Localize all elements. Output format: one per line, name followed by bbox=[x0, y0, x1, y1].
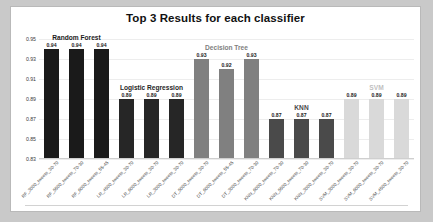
bar-value-label: 0.89 bbox=[346, 92, 356, 98]
bar-value-label: 0.87 bbox=[271, 112, 281, 118]
bar: 0.94 bbox=[69, 49, 85, 159]
bar-value-label: 0.94 bbox=[46, 42, 56, 48]
bar: 0.89 bbox=[394, 99, 410, 159]
bar-value-label: 0.89 bbox=[396, 92, 406, 98]
bar: 0.89 bbox=[169, 99, 185, 159]
group-label: Logistic Regression bbox=[120, 84, 183, 91]
bar: 0.93 bbox=[194, 59, 210, 159]
bar: 0.87 bbox=[269, 119, 285, 159]
group-label: KNN bbox=[294, 104, 308, 111]
bar: 0.94 bbox=[44, 49, 60, 159]
plot-area: 0.950.930.910.890.870.850.83 0.940.940.9… bbox=[39, 39, 414, 159]
bar: 0.93 bbox=[244, 59, 260, 159]
group-label: Random Forest bbox=[52, 34, 100, 41]
chart-card: Top 3 Results for each classifier 0.950.… bbox=[10, 6, 421, 212]
bar-value-label: 0.87 bbox=[296, 112, 306, 118]
bar-value-label: 0.89 bbox=[171, 92, 181, 98]
y-tick-label: 0.95 bbox=[26, 36, 36, 42]
bar-value-label: 0.89 bbox=[146, 92, 156, 98]
bar: 0.89 bbox=[369, 99, 385, 159]
footer-divider bbox=[25, 205, 408, 206]
bar-value-label: 0.89 bbox=[121, 92, 131, 98]
bar-value-label: 0.93 bbox=[196, 52, 206, 58]
y-tick-label: 0.87 bbox=[26, 116, 36, 122]
bar-value-label: 0.94 bbox=[96, 42, 106, 48]
bar-value-label: 0.87 bbox=[321, 112, 331, 118]
bar: 0.94 bbox=[94, 49, 110, 159]
group-label: Decision Tree bbox=[205, 44, 248, 51]
bar-value-label: 0.89 bbox=[371, 92, 381, 98]
y-tick-label: 0.83 bbox=[26, 156, 36, 162]
bar-value-label: 0.94 bbox=[71, 42, 81, 48]
bar-value-label: 0.93 bbox=[246, 52, 256, 58]
bar: 0.87 bbox=[319, 119, 335, 159]
y-tick-label: 0.91 bbox=[26, 76, 36, 82]
bar-value-label: 0.92 bbox=[221, 62, 231, 68]
x-axis-line bbox=[39, 158, 414, 159]
bar: 0.92 bbox=[219, 69, 235, 159]
chart-title: Top 3 Results for each classifier bbox=[11, 12, 420, 24]
group-label: SVM bbox=[369, 84, 383, 91]
bar: 0.89 bbox=[144, 99, 160, 159]
y-tick-label: 0.89 bbox=[26, 96, 36, 102]
y-tick-label: 0.93 bbox=[26, 56, 36, 62]
bar: 0.89 bbox=[119, 99, 135, 159]
y-tick-label: 0.85 bbox=[26, 136, 36, 142]
bar: 0.87 bbox=[294, 119, 310, 159]
bar: 0.89 bbox=[344, 99, 360, 159]
